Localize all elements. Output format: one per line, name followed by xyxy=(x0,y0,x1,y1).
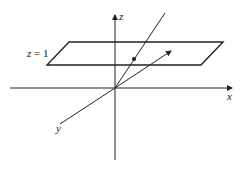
diagram-canvas: z x y z = 1 xyxy=(0,0,246,169)
x-axis-label: x xyxy=(226,90,232,102)
vector-arrow xyxy=(115,51,171,88)
intersection-point xyxy=(132,57,136,61)
line-through-origin xyxy=(115,13,165,88)
y-axis-label: y xyxy=(55,122,61,134)
y-axis xyxy=(60,88,115,124)
coordinate-diagram: z x y z = 1 xyxy=(0,0,246,169)
plane-label: z = 1 xyxy=(26,47,49,59)
plane-label-eq: = 1 xyxy=(31,47,48,59)
plane-z-equals-1 xyxy=(47,42,223,65)
z-axis-label: z xyxy=(118,10,124,22)
